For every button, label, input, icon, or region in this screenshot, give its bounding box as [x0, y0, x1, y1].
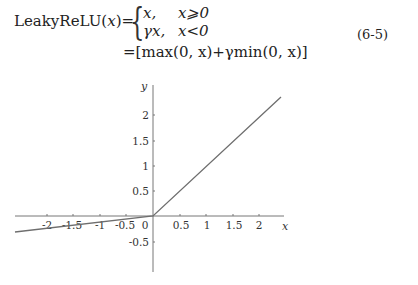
- svg-text:2: 2: [256, 219, 263, 231]
- svg-text:0: 0: [142, 219, 149, 231]
- svg-text:1: 1: [142, 160, 149, 172]
- svg-text:1: 1: [204, 219, 211, 231]
- leaky-relu-plot: -2 -1.5 -1 -0.5 0 0.5 1 1.5 2 x 2 1.5 1 …: [0, 0, 418, 285]
- svg-text:0.5: 0.5: [132, 185, 149, 197]
- x-axis-label: x: [282, 220, 289, 233]
- y-axis-label: y: [140, 80, 148, 93]
- svg-text:0.5: 0.5: [173, 219, 190, 231]
- svg-text:-0.5: -0.5: [129, 236, 149, 248]
- svg-text:1.5: 1.5: [226, 219, 243, 231]
- svg-text:-1: -1: [95, 219, 105, 231]
- svg-text:2: 2: [142, 109, 149, 121]
- svg-text:1.5: 1.5: [132, 135, 149, 147]
- svg-text:-0.5: -0.5: [115, 219, 135, 231]
